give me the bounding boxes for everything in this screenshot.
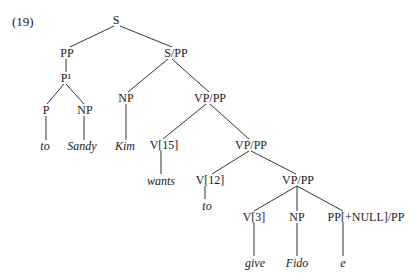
node-v3: V[3] — [243, 211, 266, 223]
node-v12: V[12] — [196, 174, 225, 186]
node-s: S — [113, 14, 120, 26]
leaf-e: e — [340, 257, 345, 269]
leaf-kim: Kim — [115, 140, 135, 152]
example-number: (19) — [12, 14, 34, 30]
leaf-to-2: to — [202, 200, 211, 212]
tree-edges — [0, 0, 417, 280]
leaf-fido: Fido — [286, 257, 309, 269]
node-pp: PP — [60, 47, 73, 59]
node-pp-null: PP[+NULL]/PP — [328, 211, 405, 223]
node-np-sandy: NP — [77, 104, 92, 116]
leaf-wants: wants — [147, 175, 175, 187]
node-np-kim: NP — [118, 92, 133, 104]
node-p: P — [43, 104, 50, 116]
node-s-slash-pp: S/PP — [164, 47, 187, 59]
leaf-sandy: Sandy — [67, 140, 96, 152]
leaf-give: give — [245, 257, 265, 269]
node-np-fido: NP — [289, 211, 304, 223]
node-p-bar: P¹ — [61, 72, 71, 84]
node-vp-pp-1: VP/PP — [194, 92, 226, 104]
node-v15: V[15] — [150, 139, 179, 151]
node-vp-pp-3: VP/PP — [282, 174, 314, 186]
leaf-to-1: to — [40, 140, 49, 152]
node-vp-pp-2: VP/PP — [235, 139, 267, 151]
